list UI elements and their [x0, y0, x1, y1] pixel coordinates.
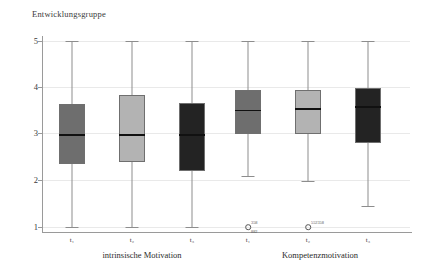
whisker-cap-upper-3 [242, 41, 255, 42]
whisker-lower-3 [248, 134, 249, 176]
whisker-cap-lower-0 [66, 227, 79, 228]
whisker-cap-upper-2 [186, 41, 199, 42]
boxplot-4[interactable]: 552358 [278, 0, 338, 273]
outlier-point-3-0[interactable] [245, 224, 251, 230]
whisker-upper-1 [132, 41, 133, 95]
box-iqr-1[interactable] [119, 95, 145, 161]
whisker-upper-4 [308, 41, 309, 90]
outlier-point-4-0[interactable] [305, 224, 311, 230]
box-iqr-5[interactable] [355, 88, 381, 144]
whisker-cap-lower-3 [242, 176, 255, 177]
whisker-lower-1 [132, 162, 133, 227]
x-tick-text-0: t₁ [70, 236, 74, 244]
boxplot-2[interactable] [162, 0, 222, 273]
boxplot-5[interactable] [338, 0, 398, 273]
x-tick-label-2: t₃ [172, 236, 212, 244]
box-iqr-4[interactable] [295, 90, 321, 134]
whisker-cap-upper-5 [362, 41, 375, 42]
median-line-5 [355, 106, 381, 108]
boxplot-1[interactable] [102, 0, 162, 273]
whisker-cap-upper-4 [302, 41, 315, 42]
group-label-intrinsische-motivation: intrinsische Motivation [62, 250, 222, 260]
whisker-lower-4 [308, 134, 309, 181]
boxplot-figure: Entwicklungsgruppe 5 4 3 2 1 35888255235… [0, 0, 427, 273]
x-tick-label-1: t₂ [112, 236, 152, 244]
median-line-2 [179, 134, 205, 136]
whisker-cap-lower-4 [302, 181, 315, 182]
x-tick-label-3: t₁ [228, 236, 268, 244]
outlier-label-3-0-0: 358 [251, 220, 257, 225]
y-tick-label-2: 2 [24, 175, 38, 185]
boxplot-0[interactable] [42, 0, 102, 273]
x-tick-text-5: t₃ [366, 236, 370, 244]
x-tick-text-2: t₃ [190, 236, 194, 244]
box-iqr-3[interactable] [235, 90, 261, 134]
x-tick-label-5: t₃ [348, 236, 388, 244]
outlier-label-4-0-0: 552358 [311, 220, 324, 225]
x-tick-label-4: t₂ [288, 236, 328, 244]
box-iqr-2[interactable] [179, 103, 205, 171]
whisker-cap-lower-1 [126, 227, 139, 228]
y-tick-label-1: 1 [24, 222, 38, 232]
whisker-upper-5 [368, 41, 369, 88]
median-line-1 [119, 134, 145, 136]
x-tick-text-3: t₁ [246, 236, 250, 244]
whisker-cap-upper-1 [126, 41, 139, 42]
whisker-upper-2 [192, 41, 193, 103]
x-tick-text-4: t₂ [306, 236, 310, 244]
x-tick-label-0: t₁ [52, 236, 92, 244]
whisker-lower-2 [192, 171, 193, 227]
whisker-upper-0 [72, 41, 73, 104]
whisker-cap-lower-5 [362, 206, 375, 207]
whisker-lower-5 [368, 143, 369, 206]
y-tick-label-3: 3 [24, 128, 38, 138]
x-tick-text-1: t₂ [130, 236, 134, 244]
median-line-0 [59, 134, 85, 136]
y-tick-label-4: 4 [24, 82, 38, 92]
outlier-label-3-0-1: 882 [251, 229, 257, 234]
whisker-lower-0 [72, 164, 73, 227]
whisker-cap-lower-2 [186, 227, 199, 228]
group-label-kompetenzmotivation: Kompetenzmotivation [240, 250, 400, 260]
boxplot-3[interactable]: 358882 [218, 0, 278, 273]
whisker-upper-3 [248, 41, 249, 90]
median-line-4 [295, 108, 321, 110]
whisker-cap-upper-0 [66, 41, 79, 42]
y-tick-label-5: 5 [24, 36, 38, 46]
median-line-3 [235, 110, 261, 112]
